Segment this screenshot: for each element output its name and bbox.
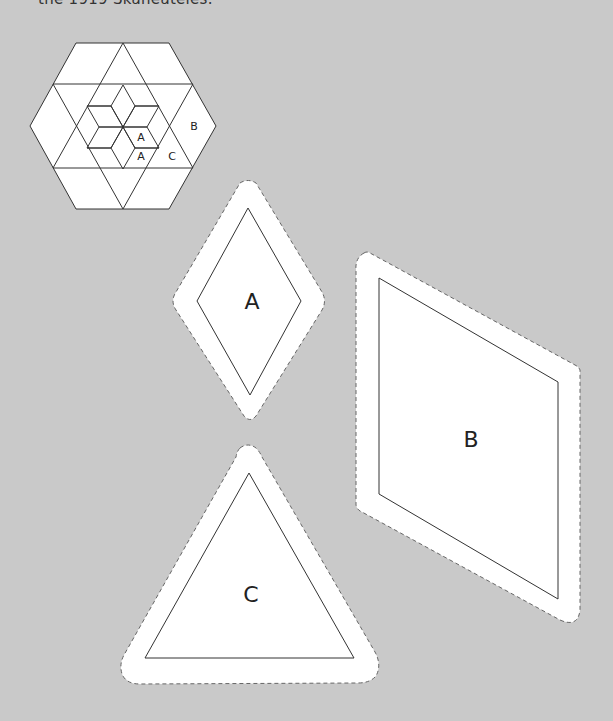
diagram-label-c: C: [168, 150, 176, 163]
template-c-label: C: [243, 582, 258, 607]
diagram-label-a1: A: [137, 131, 145, 144]
diagram-label-b: B: [190, 120, 198, 133]
hexagon-block-diagram: [30, 43, 216, 209]
template-a-label: A: [244, 289, 259, 314]
template-b-label: B: [463, 427, 478, 452]
template-c: [121, 445, 379, 684]
diagram-label-a2: A: [137, 150, 145, 163]
